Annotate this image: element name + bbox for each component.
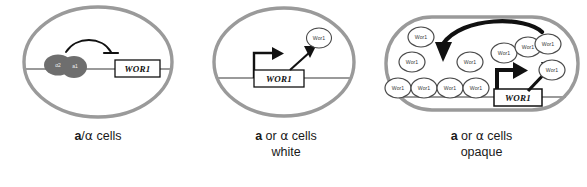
figure-root: α2 a1 WOR1 a/α cells <box>0 0 587 187</box>
cell-membrane-circle <box>214 8 354 116</box>
panel-diploid-cell: α2 a1 WOR1 a/α cells <box>0 0 196 187</box>
caption-white-line1: a or α cells <box>196 128 376 144</box>
caption-white: a or α cells white <box>196 128 376 160</box>
wor1-gene-box: WOR1 <box>254 70 304 87</box>
a1-subunit-label: a1 <box>72 63 78 69</box>
wor1-protein-label: Wor1 <box>470 85 482 91</box>
wor1-protein: Wor1 <box>491 43 517 63</box>
wor1-protein-label: Wor1 <box>522 44 534 50</box>
panel-opaque-cell: WOR1 Wor1Wor1Wor1Wor1Wor1Wor1Wor1Wor1Wor… <box>376 0 587 187</box>
caption-suffix: cells <box>484 129 512 143</box>
caption-opaque-line1: a or α cells <box>376 128 587 144</box>
caption-diploid-line1: a/α cells <box>0 128 196 144</box>
wor1-gene-label: WOR1 <box>505 93 531 103</box>
wor1-protein-label: Wor1 <box>464 59 476 65</box>
wor1-protein-label: Wor1 <box>546 67 558 73</box>
panel-diploid-stage: α2 a1 WOR1 <box>0 0 196 128</box>
wor1-gene-box: WOR1 <box>494 89 542 106</box>
caption-opaque-line2: opaque <box>376 144 587 160</box>
wor1-protein: Wor1 <box>463 78 489 98</box>
caption-diploid: a/α cells <box>0 128 196 144</box>
wor1-protein: Wor1 <box>437 78 463 98</box>
caption-white-line2: white <box>196 144 376 160</box>
wor1-protein-label: Wor1 <box>542 41 554 47</box>
caption-separator: or <box>262 129 280 143</box>
white-cell-diagram: WOR1 Wor1 <box>196 0 376 128</box>
wor1-protein: Wor1 <box>535 34 561 54</box>
wor1-protein-label: Wor1 <box>392 85 404 91</box>
wor1-protein: Wor1 <box>385 78 411 98</box>
wor1-gene-label: WOR1 <box>124 64 150 74</box>
caption-suffix: cells <box>93 129 121 143</box>
wor1-protein-label: Wor1 <box>444 85 456 91</box>
wor1-protein: Wor1 <box>411 78 437 98</box>
wor1-protein: Wor1 <box>399 52 425 72</box>
wor1-protein: Wor1 <box>539 60 565 80</box>
wor1-protein-label: Wor1 <box>498 50 510 56</box>
wor1-gene-label: WOR1 <box>266 74 292 84</box>
wor1-protein-label: Wor1 <box>415 34 427 40</box>
opaque-cell-diagram: WOR1 Wor1Wor1Wor1Wor1Wor1Wor1Wor1Wor1Wor… <box>376 0 587 128</box>
mating-type-a: a <box>451 129 458 143</box>
wor1-protein-label: Wor1 <box>406 59 418 65</box>
panel-white-cell: WOR1 Wor1 a or α cells white <box>196 0 376 187</box>
panel-white-stage: WOR1 Wor1 <box>196 0 376 128</box>
wor1-protein-label: Wor1 <box>418 85 430 91</box>
wor1-gene-box: WOR1 <box>115 60 160 77</box>
wor1-protein-label: Wor1 <box>313 35 325 41</box>
diploid-cell-diagram: α2 a1 WOR1 <box>0 0 196 128</box>
caption-separator: or <box>458 129 476 143</box>
wor1-protein: Wor1 <box>457 52 483 72</box>
alpha2-subunit-label: α2 <box>55 62 61 68</box>
caption-opaque: a or α cells opaque <box>376 128 587 160</box>
mating-type-alpha: α <box>476 128 484 143</box>
wor1-protein: Wor1 <box>408 27 434 47</box>
panel-opaque-stage: WOR1 Wor1Wor1Wor1Wor1Wor1Wor1Wor1Wor1Wor… <box>376 0 587 128</box>
caption-suffix: cells <box>288 129 316 143</box>
mating-type-alpha: α <box>85 128 93 143</box>
wor1-protein: Wor1 <box>307 28 332 48</box>
